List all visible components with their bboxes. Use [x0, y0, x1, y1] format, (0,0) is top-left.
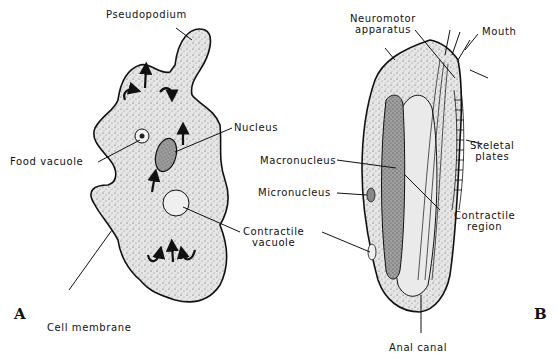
label-neuromotor-line2: apparatus — [350, 24, 416, 35]
label-nucleus: Nucleus — [234, 122, 278, 133]
label-contractile-vacuole-line1: Contractile — [243, 226, 304, 237]
label-micronucleus: Micronucleus — [258, 187, 331, 198]
label-neuromotor-line1: Neuromotor — [350, 13, 416, 24]
macronucleus — [382, 95, 405, 279]
panel-letter-b: B — [534, 305, 547, 323]
figure-canvas — [0, 0, 558, 359]
label-neuromotor-apparatus: Neuromotor apparatus — [350, 13, 416, 35]
micronucleus — [367, 188, 375, 202]
label-contractile-region: Contractile region — [454, 210, 515, 232]
label-anal-canal: Anal canal — [389, 342, 447, 353]
label-mouth: Mouth — [482, 26, 516, 37]
label-contractile-vacuole: Contractile vacuole — [243, 226, 304, 248]
label-contractile-region-line2: region — [454, 221, 515, 232]
label-contractile-region-line1: Contractile — [454, 210, 515, 221]
label-pseudopodium: Pseudopodium — [106, 9, 187, 20]
label-cell-membrane: Cell membrane — [47, 322, 131, 333]
label-skeletal-line2: plates — [470, 151, 515, 162]
label-skeletal-line1: Skeletal — [470, 140, 515, 151]
panel-letter-a: A — [14, 305, 26, 323]
contractile-vacuole — [163, 190, 189, 216]
label-macronucleus: Macronucleus — [260, 155, 336, 166]
label-contractile-vacuole-line2: vacuole — [243, 237, 304, 248]
label-food-vacuole: Food vacuole — [10, 156, 83, 167]
label-skeletal-plates: Skeletal plates — [470, 140, 515, 162]
